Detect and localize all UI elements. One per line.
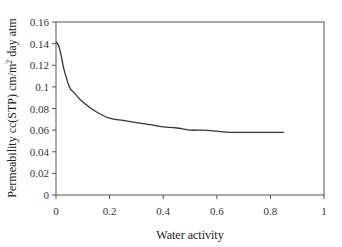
- y-tick-label: 0.16: [30, 16, 50, 28]
- y-tick-label: 0: [44, 189, 50, 201]
- x-tick-label: 0.8: [264, 205, 278, 217]
- x-tick-label: 0.6: [210, 205, 224, 217]
- y-axis-title: Permeability cc(STP) cm/m2 day atm: [5, 18, 19, 198]
- x-tick-label: 1: [321, 205, 327, 217]
- x-axis-ticks: 00.20.40.60.81: [53, 195, 327, 217]
- y-tick-label: 0.1: [35, 81, 49, 93]
- y-tick-label: 0.12: [30, 59, 49, 71]
- plot-border: [56, 22, 324, 195]
- y-tick-label: 0.14: [30, 38, 50, 50]
- x-tick-label: 0.2: [103, 205, 117, 217]
- y-axis-ticks: 00.020.040.060.080.10.120.140.16: [30, 16, 56, 201]
- y-tick-label: 0.06: [30, 124, 50, 136]
- y-tick-label: 0.08: [30, 103, 50, 115]
- x-tick-label: 0: [53, 205, 59, 217]
- permeability-line: [56, 42, 284, 133]
- x-tick-label: 0.4: [156, 205, 170, 217]
- plot-frame: [56, 22, 324, 195]
- data-series: [56, 42, 284, 133]
- x-axis-title: Water activity: [156, 228, 223, 242]
- y-tick-label: 0.04: [30, 146, 50, 158]
- y-tick-label: 0.02: [30, 167, 49, 179]
- chart: 00.020.040.060.080.10.120.140.16 00.20.4…: [0, 0, 342, 247]
